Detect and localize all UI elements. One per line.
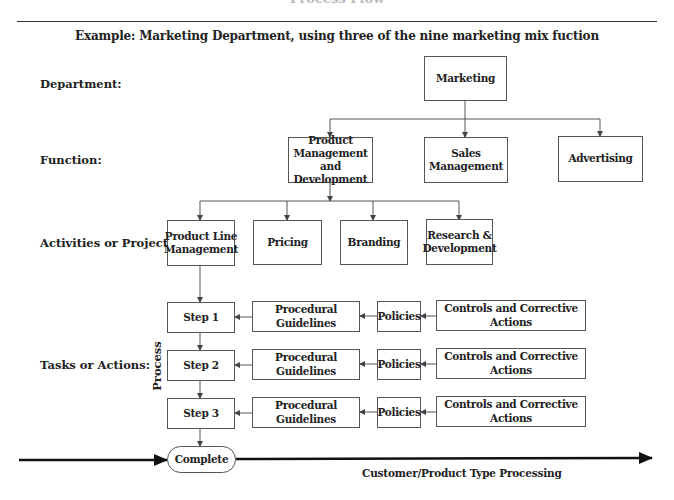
row-label-function: Function: xyxy=(40,153,102,167)
function-box-sales-management[interactable]: Sales Management xyxy=(424,137,508,183)
activity-box-product-line-management[interactable]: Product Line Management xyxy=(167,220,235,266)
axis-label-processing: Customer/Product Type Processing xyxy=(362,467,562,479)
step-box-3[interactable]: Step 3 xyxy=(167,398,235,429)
guidelines-box-2[interactable]: Procedural Guidelines xyxy=(252,349,360,380)
controls-box-1[interactable]: Controls and Corrective Actions xyxy=(436,300,586,331)
row-label-activities: Activities or Projects: xyxy=(40,236,179,250)
controls-box-3[interactable]: Controls and Corrective Actions xyxy=(436,396,586,427)
function-box-advertising[interactable]: Advertising xyxy=(558,136,643,182)
guidelines-box-3[interactable]: Procedural Guidelines xyxy=(252,397,360,428)
page-title: Process Flow xyxy=(0,0,674,6)
title-divider xyxy=(17,21,657,22)
activity-box-branding[interactable]: Branding xyxy=(340,220,408,265)
policies-box-2[interactable]: Policies xyxy=(377,349,421,380)
controls-box-2[interactable]: Controls and Corrective Actions xyxy=(436,348,586,379)
activity-box-pricing[interactable]: Pricing xyxy=(253,220,322,265)
complete-terminal[interactable]: Complete xyxy=(167,446,236,473)
policies-box-3[interactable]: Policies xyxy=(377,397,421,428)
policies-box-1[interactable]: Policies xyxy=(377,301,421,332)
step-box-2[interactable]: Step 2 xyxy=(167,350,235,381)
function-box-product-management[interactable]: Product Management and Development xyxy=(288,137,373,183)
department-box-marketing[interactable]: Marketing xyxy=(424,56,507,101)
activity-box-research-development[interactable]: Research & Development xyxy=(426,219,493,265)
row-label-department: Department: xyxy=(40,77,122,91)
diagram-subtitle: Example: Marketing Department, using thr… xyxy=(0,29,674,43)
guidelines-box-1[interactable]: Procedural Guidelines xyxy=(252,301,360,332)
step-box-1[interactable]: Step 1 xyxy=(167,302,235,333)
row-label-tasks: Tasks or Actions: xyxy=(40,358,150,372)
process-vertical-label: Process xyxy=(150,341,164,391)
